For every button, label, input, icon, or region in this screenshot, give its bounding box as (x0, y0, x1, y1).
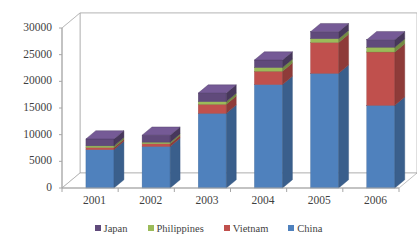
x-tick-label: 2005 (291, 194, 347, 206)
bar-segment-side (395, 44, 405, 106)
bar-segment (142, 146, 170, 188)
bar-segment (311, 42, 339, 73)
legend-item-label: China (297, 223, 322, 234)
legend-swatch-icon (224, 225, 230, 231)
bar-segment-side (226, 105, 236, 188)
x-tick-label: 2001 (67, 194, 123, 206)
bar-segment-side (339, 65, 349, 188)
bar-segment (254, 85, 282, 188)
legend-item-label: Philippines (157, 223, 204, 234)
x-tick-label: 2006 (347, 194, 403, 206)
bar-segment (86, 150, 114, 188)
bar-segment (254, 71, 282, 84)
bar-segment (86, 147, 114, 149)
bar-segment (311, 39, 339, 43)
bar-segment (86, 146, 114, 148)
bar-segment (311, 32, 339, 39)
bar-segment (86, 139, 114, 146)
legend-item-label: Vietnam (233, 223, 269, 234)
bar-segment (311, 73, 339, 188)
bar-segment (367, 47, 395, 52)
bar-segment (254, 67, 282, 71)
legend-item-philippines[interactable]: Philippines (148, 223, 204, 234)
bar-segment-side (395, 97, 405, 188)
legend-item-label: Japan (104, 223, 128, 234)
x-axis-labels: 2001 2002 2003 2004 2005 2006 (0, 194, 417, 212)
bar-segment (367, 40, 395, 47)
bar-segment-side (170, 138, 180, 188)
bar-segment (254, 60, 282, 67)
bar-segment-side (283, 76, 293, 188)
legend-item-china[interactable]: China (288, 223, 322, 234)
x-tick-label: 2004 (235, 194, 291, 206)
legend-swatch-icon (95, 225, 101, 231)
bar-segment (142, 142, 170, 144)
legend-item-vietnam[interactable]: Vietnam (224, 223, 269, 234)
chart-legend: Japan Philippines Vietnam China (0, 220, 417, 236)
legend-item-japan[interactable]: Japan (95, 223, 128, 234)
stacked-column-chart: 30000 25000 20000 15000 10000 5000 0 200… (0, 0, 417, 244)
bar-segment (198, 102, 226, 105)
bar-segment (367, 105, 395, 188)
legend-swatch-icon (288, 225, 294, 231)
bar-segment (367, 52, 395, 105)
bar-segment (198, 113, 226, 188)
bar-segment (142, 135, 170, 142)
legend-swatch-icon (148, 225, 154, 231)
x-tick-label: 2003 (179, 194, 235, 206)
bar-segment (198, 104, 226, 113)
bar-segment (142, 144, 170, 147)
bar-segment (198, 93, 226, 102)
x-tick-label: 2002 (123, 194, 179, 206)
